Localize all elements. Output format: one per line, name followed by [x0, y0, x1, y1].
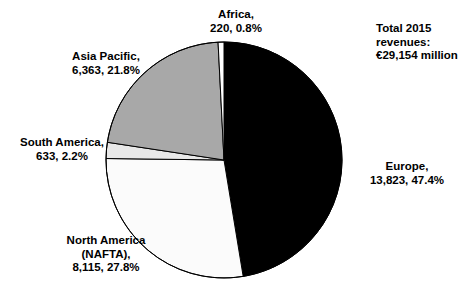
slice-label-south-america-line1: South America, [2, 136, 122, 150]
slice-label-africa: Africa, 220, 0.8% [183, 8, 289, 35]
slice-label-north-america-line1: North America [44, 234, 168, 248]
total-revenues-line3: €29,154 million [376, 49, 463, 63]
slice-label-asia-pacific-line2: 6,363, 21.8% [48, 64, 164, 78]
slice-label-south-america-line2: 633, 2.2% [2, 150, 122, 164]
slice-label-europe: Europe, 13,823, 47.4% [352, 160, 462, 187]
pie-slice-europe[interactable] [224, 42, 342, 276]
total-revenues-line2: revenues: [376, 36, 463, 50]
slice-label-europe-line1: Europe, [352, 160, 462, 174]
slice-label-asia-pacific: Asia Pacific, 6,363, 21.8% [48, 50, 164, 77]
total-revenues-line1: Total 2015 [376, 22, 463, 36]
slice-label-africa-line2: 220, 0.8% [183, 22, 289, 36]
slice-label-europe-line2: 13,823, 47.4% [352, 174, 462, 188]
slice-label-north-america-line2: (NAFTA), [44, 248, 168, 262]
slice-label-asia-pacific-line1: Asia Pacific, [48, 50, 164, 64]
slice-label-africa-line1: Africa, [183, 8, 289, 22]
slice-label-north-america: North America (NAFTA), 8,115, 27.8% [44, 234, 168, 275]
pie-chart-figure: Africa, 220, 0.8% Asia Pacific, 6,363, 2… [0, 0, 463, 298]
total-revenues-annotation: Total 2015 revenues: €29,154 million [376, 22, 463, 63]
slice-label-north-america-line3: 8,115, 27.8% [44, 261, 168, 275]
slice-label-south-america: South America, 633, 2.2% [2, 136, 122, 163]
